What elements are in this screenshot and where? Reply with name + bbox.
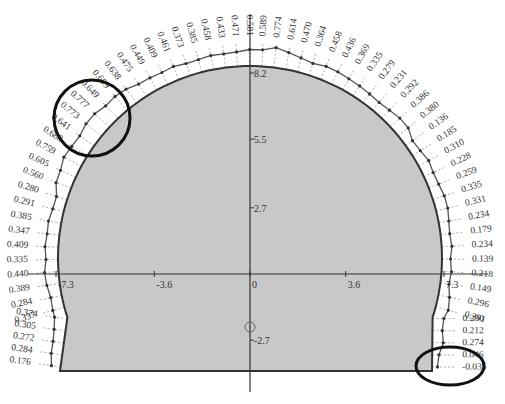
measured-value-label: 0.347 [8, 224, 31, 236]
measured-value-label: 0.335 [7, 254, 29, 264]
measurement-point [55, 195, 58, 198]
measurement-point [50, 352, 53, 355]
center-marker-dot [249, 326, 251, 328]
radial-dash-line [222, 44, 225, 68]
measurement-point [442, 317, 445, 320]
measurement-point [51, 340, 54, 343]
measurement-point [124, 88, 127, 91]
measurement-point [299, 56, 302, 59]
measured-value-label: 0.458 [199, 18, 213, 41]
measured-value-label: 0.440 [7, 268, 29, 280]
measured-value-label: 0.614 [285, 17, 299, 40]
measurement-point [449, 257, 452, 260]
measured-value-label: 0.284 [11, 342, 34, 355]
measured-value-label: 0.364 [313, 24, 329, 48]
measurement-point [197, 58, 200, 61]
measurement-point [437, 353, 440, 356]
measurement-point [441, 329, 444, 332]
measured-value-label: 0.179 [470, 223, 493, 235]
measurement-point [172, 65, 175, 68]
measurement-point [378, 101, 381, 104]
measurement-point [358, 84, 361, 87]
measured-value-label: 0.335 [460, 179, 484, 195]
x-tick-label: -7.3 [58, 279, 74, 290]
measured-value-label: 0.471 [229, 15, 241, 37]
radial-dash-line [286, 46, 290, 70]
radial-dash-line [170, 58, 179, 80]
measurement-point [46, 232, 49, 235]
x-tick-label: 3.6 [348, 279, 361, 290]
measurement-point [113, 95, 116, 98]
tunnel-section-svg: -7.3-3.603.67.3-2.72.75.58.2 0.1760.2840… [0, 0, 505, 404]
radial-dash-line [321, 57, 330, 79]
radial-dash-line [442, 271, 466, 273]
measurement-point [432, 171, 435, 174]
measurement-point [436, 365, 439, 368]
measured-value-label: 0.290 [463, 313, 485, 323]
measurement-point [47, 219, 50, 222]
measurement-point [398, 116, 401, 119]
tunnel-section-figure: -7.3-3.603.67.3-2.72.75.58.2 0.1760.2840… [0, 0, 505, 404]
y-tick-label: 5.5 [254, 134, 267, 145]
measurement-point [325, 65, 328, 68]
measured-value-label: 0.433 [214, 16, 227, 39]
measured-value-label: 0.589 [257, 15, 268, 37]
measurement-point [45, 284, 48, 287]
measurement-point [447, 309, 450, 312]
measurement-point [222, 52, 225, 55]
radial-dash-line [236, 42, 238, 66]
measurement-point [84, 122, 87, 125]
measured-value-label: 0.218 [471, 268, 493, 280]
measurement-point [347, 77, 350, 80]
radial-dash-line [101, 101, 118, 118]
measured-value-label: 0.280 [17, 179, 41, 195]
measured-value-label: 0.274 [462, 337, 484, 347]
radial-dash-line [209, 46, 214, 70]
measurement-point [411, 139, 414, 142]
measurement-point [104, 104, 107, 107]
y-tick-label: 8.2 [254, 68, 267, 79]
x-tick-label: -3.6 [156, 279, 172, 290]
x-tick-label: 7.3 [446, 279, 459, 290]
measurement-point [51, 207, 54, 210]
measurement-point [437, 183, 440, 186]
measured-value-label: 0.409 [7, 239, 29, 250]
y-tick-label: -2.7 [254, 335, 270, 346]
measurement-point [446, 207, 449, 210]
radial-dash-line [49, 180, 71, 188]
radial-dash-line [54, 167, 76, 177]
measurement-point [78, 134, 81, 137]
measurement-point [49, 296, 52, 299]
measurement-point [93, 112, 96, 115]
measurement-point [235, 50, 238, 53]
radial-dash-line [133, 76, 146, 96]
x-tick-label: 0 [252, 279, 257, 290]
measurement-point [53, 316, 56, 319]
measurement-point [287, 51, 290, 54]
measurement-point [419, 149, 422, 152]
measurement-point [62, 156, 65, 159]
radial-dash-line [439, 219, 463, 223]
measured-value-label: 0.774 [271, 16, 283, 39]
measured-value-label: 0.385 [10, 209, 33, 223]
measured-value-label: 0.560 [22, 165, 46, 182]
radial-dash-line [441, 232, 465, 235]
measurement-point [54, 181, 57, 184]
measured-value-label: 0.581 [245, 15, 255, 37]
radial-dash-line [298, 49, 304, 72]
measured-value-label: 0.373 [170, 25, 186, 49]
measured-value-label: 0.139 [472, 253, 494, 263]
measurement-point [443, 194, 446, 197]
measurement-point [148, 76, 151, 79]
measurement-point [44, 258, 47, 261]
measurement-point [368, 92, 371, 95]
measured-value-label: 0.389 [8, 282, 31, 295]
measurement-point [50, 364, 53, 367]
measurement-point [407, 126, 410, 129]
measured-value-label: 0.234 [471, 238, 493, 249]
radial-dash-line [35, 271, 59, 273]
measurement-point [274, 46, 277, 49]
measurement-point [137, 82, 140, 85]
radial-dash-line [262, 42, 263, 66]
measured-value-label: 0.176 [9, 354, 32, 367]
